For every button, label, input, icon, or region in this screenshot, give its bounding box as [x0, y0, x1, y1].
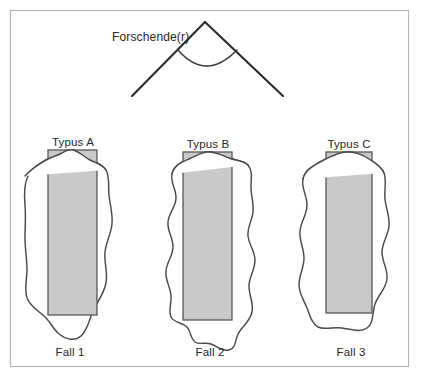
typus-label-c: Typus C [327, 138, 370, 150]
researcher-label: Forschende(r) [112, 30, 189, 44]
case-group-1: Typus A Fall 1 [24, 136, 112, 358]
fall-label-2: Fall 2 [195, 346, 224, 358]
diagram-canvas: Forschende(r) Typus A Fall 1 Typus B Fal… [0, 0, 424, 378]
case-group-2: Typus B Fall 2 [166, 138, 255, 358]
fall-label-3: Fall 3 [336, 346, 365, 358]
case-group-3: Typus C Fall 3 [299, 138, 389, 358]
fall-label-1: Fall 1 [55, 346, 84, 358]
typus-rect-b [183, 152, 232, 320]
cone-right-line [205, 22, 283, 96]
typus-rect-a [48, 150, 97, 315]
typus-label-b: Typus B [187, 138, 230, 150]
typus-label-a: Typus A [52, 136, 94, 148]
cone-angle-arc [178, 50, 237, 66]
typus-fall-diagram: Forschende(r) Typus A Fall 1 Typus B Fal… [0, 0, 424, 378]
